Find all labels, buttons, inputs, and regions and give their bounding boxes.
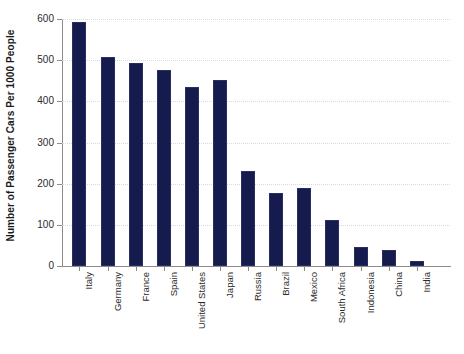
x-tick-label-text: Indonesia <box>365 272 376 313</box>
x-tick-label-text: Russia <box>252 272 263 301</box>
bar <box>129 63 143 266</box>
bar <box>410 261 424 266</box>
bar <box>382 250 396 266</box>
plot-area <box>62 19 450 266</box>
gridline <box>62 225 450 227</box>
x-tick-mark <box>332 267 333 271</box>
x-tick-mark <box>164 267 165 271</box>
y-tick-label: 0 <box>10 260 54 271</box>
bar <box>354 247 368 266</box>
x-tick-label-text: Germany <box>112 272 123 311</box>
x-tick-mark <box>276 267 277 271</box>
x-tick-mark <box>389 267 390 271</box>
x-tick-label-text: United States <box>196 272 207 329</box>
x-tick-label-text: China <box>393 272 404 297</box>
x-tick-label-text: Mexico <box>308 272 319 302</box>
x-tick-mark <box>192 267 193 271</box>
bar <box>185 87 199 266</box>
bar <box>101 57 115 266</box>
gridline <box>62 101 450 103</box>
x-tick-mark <box>79 267 80 271</box>
x-tick-label-text: Japan <box>224 272 235 298</box>
bar <box>297 188 311 266</box>
x-tick-label-text: Italy <box>83 272 94 289</box>
x-tick-mark <box>304 267 305 271</box>
bar <box>325 220 339 266</box>
y-tick-label: 500 <box>10 54 54 65</box>
bar-chart: Number of Passenger Cars Per 1000 People… <box>0 0 464 354</box>
bar <box>213 80 227 266</box>
x-tick-mark <box>248 267 249 271</box>
bar <box>269 193 283 266</box>
x-tick-label-text: Brazil <box>280 272 291 296</box>
gridline <box>62 60 450 62</box>
x-tick-mark <box>136 267 137 271</box>
bar <box>157 70 171 266</box>
y-tick-label: 600 <box>10 13 54 24</box>
gridline <box>62 184 450 186</box>
x-tick-label-text: South Africa <box>336 272 347 323</box>
x-tick-label-text: France <box>140 272 151 302</box>
x-axis-line <box>62 266 451 267</box>
x-tick-mark <box>361 267 362 271</box>
y-tick-label: 100 <box>10 219 54 230</box>
bar <box>72 22 86 266</box>
y-tick-label: 200 <box>10 178 54 189</box>
y-tick-label: 400 <box>10 95 54 106</box>
gridline <box>62 143 450 145</box>
y-tick-label: 300 <box>10 137 54 148</box>
x-tick-mark <box>417 267 418 271</box>
gridline <box>62 19 450 21</box>
x-tick-label-text: India <box>421 272 432 293</box>
bar <box>241 171 255 267</box>
x-tick-mark <box>108 267 109 271</box>
x-tick-mark <box>220 267 221 271</box>
x-tick-label-text: Spain <box>168 272 179 296</box>
